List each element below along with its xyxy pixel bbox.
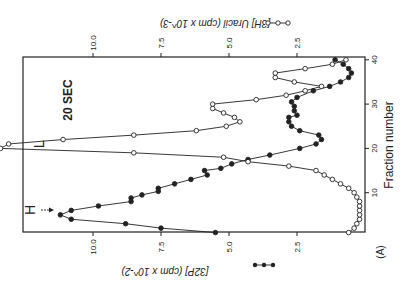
- h3-point: [346, 230, 351, 235]
- h3-point: [210, 102, 215, 107]
- heavy-label: H: [22, 205, 38, 215]
- p32-point: [297, 146, 302, 151]
- h3-point: [314, 168, 319, 173]
- p32-point: [156, 186, 161, 191]
- p32-axis-label: [32P] (cpm x 10^-2): [122, 266, 210, 277]
- h3-point: [221, 111, 226, 116]
- h3-point: [352, 190, 357, 195]
- h3-axis-label: [3H] Uracil (cpm x 10^-3): [160, 18, 271, 29]
- fraction-tick-label: 20: [370, 143, 379, 152]
- p32-point: [287, 115, 292, 120]
- p32-point: [292, 108, 297, 113]
- p32-point: [268, 153, 273, 158]
- light-marker: L: [30, 140, 47, 148]
- p32-point: [69, 208, 74, 213]
- rotated-line-chart: 2.55.07.510.02.55.07.510.010203040 [3H] …: [0, 0, 419, 287]
- h3-point: [6, 142, 11, 147]
- p32-legend-marker: [253, 263, 275, 267]
- bottom-tick-label: 10.0: [89, 239, 98, 255]
- h3-point: [303, 89, 308, 94]
- time-label: 20 SEC: [61, 79, 75, 121]
- h3-point: [357, 213, 362, 218]
- h3-point: [292, 80, 297, 85]
- p32-point: [140, 193, 145, 198]
- p32-point: [341, 62, 346, 67]
- fraction-tick-label: 40: [370, 55, 379, 64]
- h3-point: [61, 137, 66, 142]
- p32-point: [213, 230, 218, 235]
- h3-point: [338, 182, 343, 187]
- p32-point: [319, 137, 324, 142]
- h3-point: [357, 204, 362, 209]
- top-tick-label: 7.5: [157, 37, 166, 49]
- h3-point: [194, 128, 199, 133]
- p32-point: [338, 80, 343, 85]
- h3-point: [303, 66, 308, 71]
- left-axis-title: [32P] (cpm x 10^-2): [122, 266, 210, 277]
- p32-point: [316, 133, 321, 138]
- p32-point: [297, 128, 302, 133]
- h3-point: [319, 84, 324, 89]
- x-axis-title: Fraction number: [382, 101, 396, 188]
- p32-point: [289, 124, 294, 129]
- h3-point: [232, 115, 237, 120]
- h3-line: [1, 60, 360, 233]
- h3-point: [273, 75, 278, 80]
- p32-point: [202, 168, 207, 173]
- time-annotation: 20 SEC: [61, 79, 75, 121]
- fraction-axis-label: Fraction number: [382, 101, 396, 188]
- h3-point: [357, 199, 362, 204]
- p32-point: [314, 142, 319, 147]
- top-tick-label: 5.0: [225, 37, 234, 49]
- p32-point: [346, 66, 351, 71]
- p32-line: [60, 60, 351, 233]
- p32-point: [311, 89, 316, 94]
- h3-point: [346, 186, 351, 191]
- h3-point: [322, 173, 327, 178]
- heavy-marker: H: [22, 205, 38, 215]
- h3-point: [357, 208, 362, 213]
- h3-point: [330, 62, 335, 67]
- fraction-tick-label: 10: [370, 188, 379, 197]
- fraction-tick-label: 30: [370, 99, 379, 108]
- p32-point: [159, 226, 164, 231]
- p32-point: [189, 177, 194, 182]
- h3-point: [246, 159, 251, 164]
- h3-point: [330, 177, 335, 182]
- p32-point: [346, 75, 351, 80]
- p32-point: [129, 196, 134, 201]
- h3-point: [210, 106, 215, 111]
- h3-legend-marker: [266, 21, 290, 25]
- panel-letter: (A): [375, 245, 386, 258]
- panel-label: (A): [375, 245, 386, 258]
- p32-point: [295, 113, 300, 118]
- bottom-tick-label: 2.5: [293, 241, 302, 253]
- axis-ticks: 2.55.07.510.02.55.07.510.010203040: [89, 35, 379, 255]
- p32-point: [229, 162, 234, 167]
- p32-point: [219, 166, 224, 171]
- h3-point: [132, 151, 137, 156]
- p32-point: [69, 217, 74, 222]
- p32-point: [58, 213, 63, 218]
- h3-point: [132, 133, 137, 138]
- light-label: L: [30, 140, 47, 148]
- h3-point: [344, 58, 349, 63]
- right-axis-title: [3H] Uracil (cpm x 10^-3): [160, 18, 271, 29]
- h3-point: [287, 164, 292, 169]
- p32-point: [349, 71, 354, 76]
- p32-point: [96, 204, 101, 209]
- p32-point: [292, 104, 297, 109]
- bottom-tick-label: 5.0: [225, 241, 234, 253]
- h3-point: [355, 195, 360, 200]
- h3-point: [352, 226, 357, 231]
- top-tick-label: 2.5: [293, 37, 302, 49]
- h3-point: [221, 155, 226, 160]
- p32-point: [333, 58, 338, 63]
- heavy-arrow: [41, 208, 54, 213]
- p32-point: [205, 173, 210, 178]
- h3-point: [0, 146, 3, 151]
- h3-point: [254, 97, 259, 102]
- h3-point: [238, 120, 243, 125]
- p32-point: [295, 95, 300, 100]
- p32-point: [123, 221, 128, 226]
